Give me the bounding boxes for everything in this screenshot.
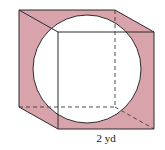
cube-sphere-diagram: 2 yd xyxy=(0,0,165,150)
edge-length-label: 2 yd xyxy=(96,132,116,144)
cube-body xyxy=(19,10,154,129)
